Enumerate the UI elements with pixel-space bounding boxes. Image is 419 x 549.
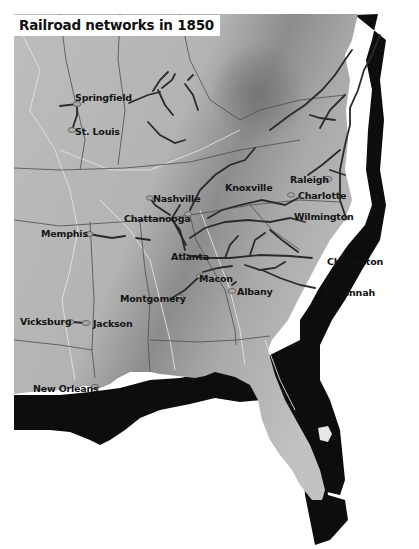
city-label-jackson: Jackson [93,318,132,329]
city-label-springfield: Springfield [75,92,132,103]
city-label-montgomery: Montgomery [120,293,186,304]
city-label-atlanta: Atlanta [171,251,209,262]
city-label-nashville: Nashville [153,193,200,204]
city-label-albany: Albany [237,286,273,297]
city-label-new-orleans: New Orleans [33,383,99,394]
city-label-memphis: Memphis [41,228,88,239]
city-label-chattanooga: Chattanooga [124,213,190,224]
city-label-savannah: Savannah [324,287,375,298]
city-label-raleigh: Raleigh [290,174,329,185]
city-label-charlotte: Charlotte [298,190,346,201]
city-label-macon: Macon [199,273,233,284]
city-label-wilmington: Wilmington [294,211,354,222]
city-label-knoxville: Knoxville [225,182,272,193]
city-label-st-louis: St. Louis [75,126,120,137]
city-label-charleston: Charleston [327,256,383,267]
city-label-vicksburg: Vicksburg [20,316,71,327]
map-title: Railroad networks in 1850 [14,15,220,36]
